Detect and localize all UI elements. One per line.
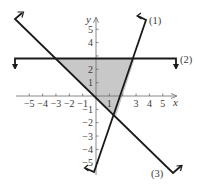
x-tick-label: −5 <box>24 98 35 109</box>
x-tick-label: 4 <box>147 98 152 109</box>
line-2-label: (2) <box>180 54 193 66</box>
x-tick-label: −3 <box>51 98 62 109</box>
y-tick-label: −1 <box>82 104 93 115</box>
y-tick-label: −3 <box>82 131 93 142</box>
line-1-label: (1) <box>149 15 162 27</box>
y-tick-label: 5 <box>88 24 93 35</box>
x-axis-label: x <box>172 96 178 108</box>
y-tick-label: −2 <box>82 117 93 128</box>
y-tick-label: −5 <box>82 157 93 168</box>
y-axis-label: y <box>85 13 91 25</box>
line-3-label: (3) <box>151 168 164 180</box>
y-tick-label: 4 <box>88 37 93 48</box>
y-tick-label: −4 <box>82 144 93 155</box>
y-tick-label: 1 <box>88 77 93 88</box>
inequality-graph: −5−4−3−2−113455421−1−2−3−4−5 x y (1) (2)… <box>0 0 197 188</box>
x-tick-label: 5 <box>160 98 165 109</box>
x-tick-label: −2 <box>64 98 75 109</box>
y-tick-label: 2 <box>88 64 93 75</box>
x-tick-label: 1 <box>107 98 112 109</box>
x-tick-label: 3 <box>134 98 139 109</box>
x-tick-label: −4 <box>37 98 48 109</box>
